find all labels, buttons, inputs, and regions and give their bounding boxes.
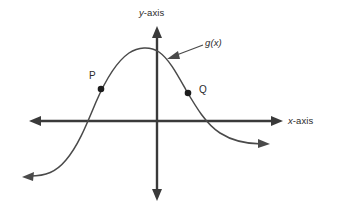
curve-right-arrowhead	[258, 139, 270, 148]
x-axis-label-suffix: -axis	[293, 115, 314, 126]
point-p-marker	[98, 86, 105, 93]
x-axis-left-arrowhead	[29, 116, 41, 126]
function-curve	[30, 48, 262, 176]
curve-left-arrowhead	[22, 172, 34, 181]
graph-figure: y-axis x-axis g(x) P Q	[0, 0, 339, 220]
y-axis-label-suffix: -axis	[144, 7, 165, 18]
coordinate-plane-svg	[0, 0, 339, 220]
point-p-label: P	[89, 71, 96, 81]
point-q-marker	[185, 90, 192, 97]
gx-callout-arrowhead	[167, 51, 180, 59]
x-axis-right-arrowhead	[271, 116, 283, 126]
y-axis-top-arrowhead	[152, 26, 162, 38]
function-label: g(x)	[205, 38, 222, 48]
x-axis-label: x-axis	[288, 116, 313, 126]
y-axis-label: y-axis	[139, 8, 164, 18]
y-axis-bottom-arrowhead	[152, 189, 162, 201]
function-label-arg: (x)	[210, 37, 221, 48]
point-q-label: Q	[199, 85, 207, 95]
